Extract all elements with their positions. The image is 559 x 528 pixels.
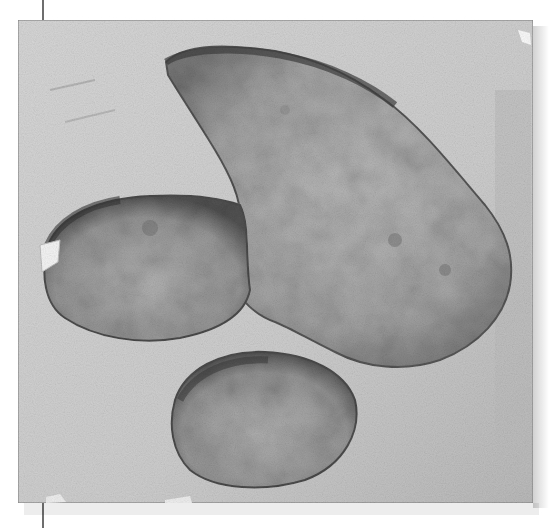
- fossil-footprint-photo: [0, 0, 559, 528]
